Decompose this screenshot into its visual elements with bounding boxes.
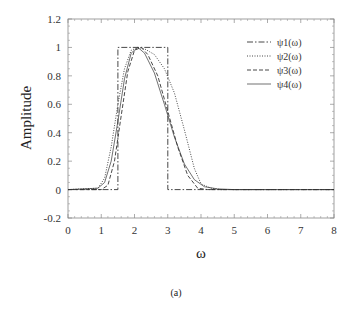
x-tick-label: 4 [198, 224, 204, 236]
y-tick-label: 0 [56, 184, 62, 196]
y-tick-label: 1.2 [47, 13, 61, 25]
legend-label: ψ3(ω) [277, 65, 302, 77]
x-tick-label: 8 [331, 224, 337, 236]
y-axis-title: Amplitude [18, 86, 34, 151]
x-tick-label: 3 [165, 224, 171, 236]
y-tick-label: 0.6 [47, 98, 61, 110]
y-tick-label: 0.4 [47, 127, 61, 139]
x-tick-label: 7 [298, 224, 304, 236]
y-tick-label: 0.2 [47, 155, 61, 167]
figure-caption: (a) [170, 287, 181, 299]
amplitude-chart: 012345678-0.200.20.40.60.811.2 ψ1(ω)ψ2(ω… [0, 0, 353, 310]
y-tick-label: 0.8 [47, 70, 61, 82]
y-tick-label: -0.2 [44, 212, 61, 224]
x-tick-label: 2 [132, 224, 138, 236]
x-tick-label: 0 [65, 224, 71, 236]
x-tick-label: 1 [99, 224, 105, 236]
legend-label: ψ1(ω) [277, 37, 302, 49]
x-tick-label: 6 [265, 224, 271, 236]
legend-label: ψ4(ω) [277, 79, 302, 91]
legend: ψ1(ω)ψ2(ω)ψ3(ω)ψ4(ω) [247, 37, 302, 91]
legend-label: ψ2(ω) [277, 51, 302, 63]
plot-frame [68, 19, 334, 218]
x-tick-label: 5 [232, 224, 238, 236]
y-tick-label: 1 [56, 41, 62, 53]
x-axis-title: ω [196, 245, 206, 261]
